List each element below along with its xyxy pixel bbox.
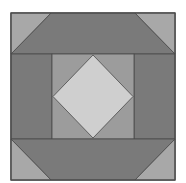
right-column [134,54,175,139]
quilt-block-diagram [0,0,186,183]
left-column [11,54,52,139]
